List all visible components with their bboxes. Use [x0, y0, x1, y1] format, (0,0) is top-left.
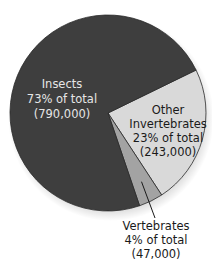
other-invertebrates-label-percent: 23% of total — [133, 131, 203, 145]
vertebrates-label-count: (47,000) — [131, 247, 180, 261]
pie-chart: Insects 73% of total (790,000) Other Inv… — [0, 0, 212, 266]
other-invertebrates-label-count: (243,000) — [140, 145, 197, 159]
insects-label-count: (790,000) — [34, 107, 91, 121]
insects-label-percent: 73% of total — [27, 92, 97, 106]
vertebrates-label-name: Vertebrates — [122, 219, 189, 233]
vertebrates-label: Vertebrates 4% of total (47,000) — [122, 219, 189, 261]
other-invertebrates-label-name-1: Other — [152, 103, 185, 117]
insects-label-name: Insects — [42, 77, 83, 91]
other-invertebrates-label-name-2: Invertebrates — [129, 117, 207, 131]
vertebrates-label-percent: 4% of total — [125, 233, 188, 247]
